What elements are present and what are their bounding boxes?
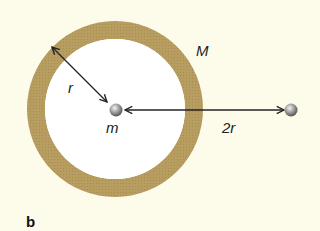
panel-label: b	[26, 213, 35, 230]
inner-particle	[110, 104, 123, 117]
radius-label: r	[68, 79, 73, 96]
distance-label: 2r	[222, 119, 235, 136]
shell-diagram	[0, 0, 320, 231]
outer-particle	[285, 104, 298, 117]
shell-mass-label: M	[196, 42, 209, 59]
inner-mass-label: m	[106, 119, 119, 136]
